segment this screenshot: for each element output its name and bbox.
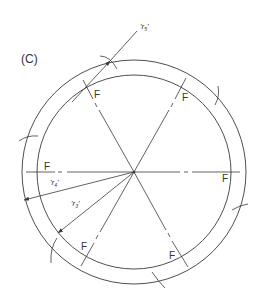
spoke-upper-right	[134, 78, 186, 172]
r3-label: 'r3'	[71, 199, 80, 209]
spoke-upper-left	[83, 80, 134, 172]
r4-label: 'r4'	[50, 178, 59, 188]
spoke-lower-left	[81, 172, 134, 266]
f-label-bottom-left: F	[81, 241, 87, 252]
figure-label: (C)	[21, 52, 38, 66]
f-label-top-right: F	[182, 92, 188, 103]
f-label-left: F	[44, 161, 50, 172]
arc-mark-left	[19, 136, 38, 141]
ring-construction-diagram: (C) 'r5' 'r4'	[0, 0, 260, 308]
f-label-right: F	[222, 173, 228, 184]
dimension-r5: 'r5'	[72, 22, 149, 102]
f-label-bottom-right: F	[169, 250, 175, 261]
r5-label: 'r5'	[140, 22, 149, 32]
spoke-lower-right	[134, 172, 188, 267]
f-label-top-left: F	[94, 89, 100, 100]
dimension-r3: 'r3'	[58, 172, 134, 233]
dimension-r4: 'r4'	[24, 172, 134, 200]
